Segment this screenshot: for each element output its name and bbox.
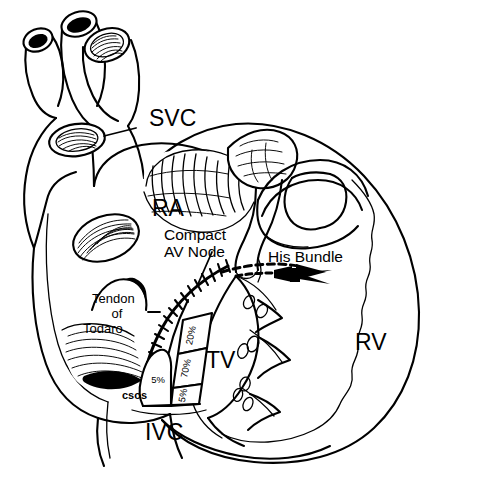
figure-canvas: 20% 70% 5% 5%	[0, 0, 477, 477]
zone-box-70: 70%	[173, 348, 207, 388]
label-compact-av-node-line2: AV Node	[164, 243, 225, 260]
label-tv: TV	[206, 347, 236, 373]
label-svc: SVC	[149, 105, 196, 131]
figure-background	[0, 0, 477, 477]
zone-label-5-csos: 5%	[151, 374, 165, 385]
label-compact-av-node-line1: Compact	[164, 226, 227, 243]
heart-anatomy-figure: 20% 70% 5% 5%	[0, 0, 477, 477]
label-ra: RA	[152, 195, 185, 221]
label-ivc: IVC	[145, 419, 183, 445]
zone-box-5-inferior: 5%	[171, 384, 202, 406]
label-todaro-line1: Tendon	[92, 291, 135, 306]
label-todaro-line2: of	[112, 306, 123, 321]
label-csos: csos	[122, 389, 147, 401]
label-todaro-line3: Todaro	[83, 321, 123, 336]
label-his-bundle: His Bundle	[268, 248, 343, 265]
label-rv: RV	[355, 329, 387, 355]
